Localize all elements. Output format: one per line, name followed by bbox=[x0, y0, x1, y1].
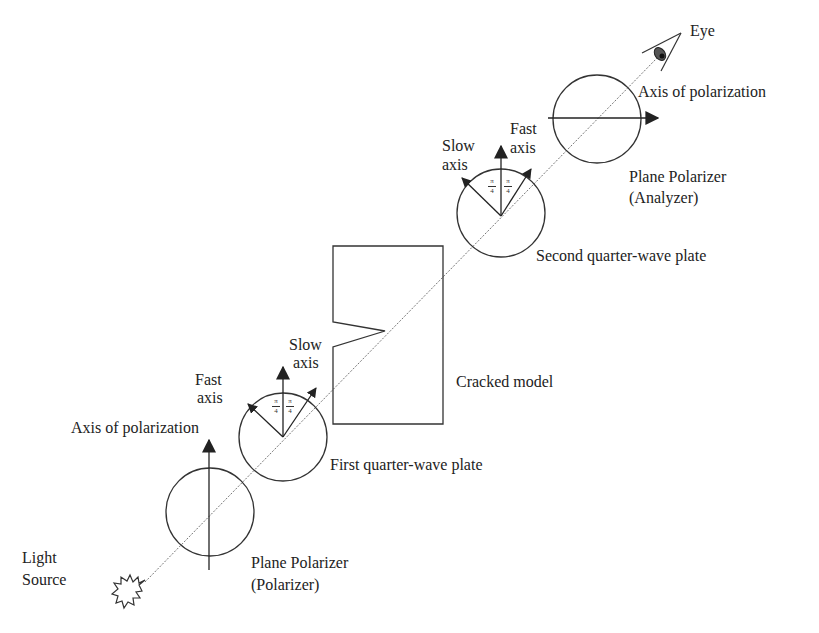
qwp2-fast-axis-label-line2: axis bbox=[510, 138, 536, 158]
light-source-label-line2: Source bbox=[22, 570, 66, 590]
analyzer-label-line2: (Analyzer) bbox=[629, 188, 698, 208]
qwp2-angle-left: π4 bbox=[488, 178, 496, 195]
analyzer-circle bbox=[553, 75, 641, 163]
polarizer-label-line1: Plane Polarizer bbox=[251, 553, 348, 573]
qwp2-slow-axis-label-line2: axis bbox=[442, 155, 468, 175]
cracked-model-shape bbox=[333, 246, 443, 424]
qwp1-angle-right: π4 bbox=[286, 398, 294, 415]
qwp2-fast-axis-label-line1: Fast bbox=[510, 119, 537, 139]
analyzer-axis-label: Axis of polarization bbox=[638, 82, 766, 102]
qwp2-angle-right: π4 bbox=[504, 178, 512, 195]
polarizer bbox=[166, 440, 254, 570]
qwp1-label: First quarter-wave plate bbox=[330, 455, 483, 475]
light-source-label-line1: Light bbox=[22, 548, 57, 568]
polarizer-axis-label: Axis of polarization bbox=[71, 418, 199, 438]
light-source-icon bbox=[112, 575, 145, 608]
polarizer-label-line2: (Polarizer) bbox=[251, 575, 319, 595]
qwp1-fast-axis-label-line1: Fast bbox=[195, 370, 222, 390]
polarizer-circle bbox=[166, 468, 254, 556]
second-quarter-wave-plate bbox=[457, 146, 545, 257]
qwp1-slow-axis-label-line2: axis bbox=[293, 353, 319, 373]
eye-icon bbox=[642, 33, 681, 71]
eye-label: Eye bbox=[690, 21, 715, 41]
cracked-model-label: Cracked model bbox=[456, 372, 553, 392]
qwp1-slow-axis-label-line1: Slow bbox=[289, 335, 322, 355]
qwp2-label: Second quarter-wave plate bbox=[536, 246, 706, 266]
qwp1-fast-axis-label-line2: axis bbox=[197, 388, 223, 408]
polariscope-diagram: Light Source Plane Polarizer (Polarizer)… bbox=[0, 0, 819, 633]
first-quarter-wave-plate bbox=[239, 367, 327, 481]
qwp2-slow-axis-label-line1: Slow bbox=[442, 136, 475, 156]
light-beam-path bbox=[145, 57, 658, 582]
analyzer-label-line1: Plane Polarizer bbox=[629, 167, 726, 187]
qwp1-angle-left: π4 bbox=[272, 398, 280, 415]
